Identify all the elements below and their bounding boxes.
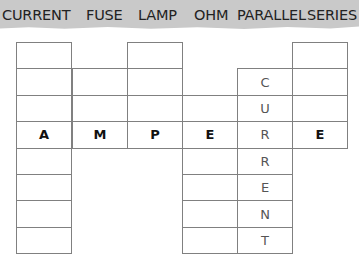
grid-cell-c5-r0[interactable] bbox=[292, 42, 348, 69]
grid-cell-c3-r4[interactable] bbox=[182, 148, 238, 175]
cell-letter: U bbox=[260, 101, 270, 116]
grid-cell-c4-r5[interactable]: E bbox=[237, 174, 293, 201]
grid-cell-c4-r1[interactable]: C bbox=[237, 68, 293, 95]
grid-cell-c3-r6[interactable] bbox=[182, 200, 238, 227]
grid-cell-c5-r3[interactable]: E bbox=[292, 121, 348, 148]
grid-cell-c4-r6[interactable]: N bbox=[237, 200, 293, 227]
grid-cell-c0-r4[interactable] bbox=[16, 148, 72, 175]
grid-cell-c0-r0[interactable] bbox=[16, 42, 72, 69]
cell-letter: C bbox=[260, 75, 269, 90]
grid-cell-c1-r1[interactable] bbox=[72, 68, 128, 95]
cell-letter: T bbox=[261, 233, 269, 248]
grid-cell-c0-r7[interactable] bbox=[16, 227, 72, 254]
grid-cell-c0-r3[interactable]: A bbox=[16, 121, 72, 148]
grid-cell-c2-r2[interactable] bbox=[127, 95, 183, 122]
grid-cell-c2-r3[interactable]: P bbox=[127, 121, 183, 148]
grid-cell-c2-r0[interactable] bbox=[127, 42, 183, 69]
word-bank-item-fuse: FUSE bbox=[86, 7, 123, 23]
grid-cell-c0-r6[interactable] bbox=[16, 200, 72, 227]
grid-cell-c1-r3[interactable]: M bbox=[72, 121, 128, 148]
word-bank-item-current: CURRENT bbox=[2, 7, 70, 23]
cell-letter: A bbox=[39, 127, 49, 142]
cell-letter: E bbox=[206, 127, 215, 142]
cell-letter: M bbox=[94, 127, 107, 142]
cell-letter: E bbox=[261, 180, 269, 195]
word-bank-item-lamp: LAMP bbox=[138, 7, 177, 23]
grid-cell-c3-r2[interactable] bbox=[182, 95, 238, 122]
grid-cell-c3-r7[interactable] bbox=[182, 227, 238, 254]
grid-cell-c5-r2[interactable] bbox=[292, 95, 348, 122]
word-bank-item-series: SERIES bbox=[307, 7, 357, 23]
grid-cell-c4-r4[interactable]: R bbox=[237, 148, 293, 175]
grid-cell-c0-r2[interactable] bbox=[16, 95, 72, 122]
grid-cell-c4-r3[interactable]: R bbox=[237, 121, 293, 148]
cell-letter: P bbox=[150, 127, 160, 142]
cell-letter: R bbox=[260, 127, 269, 142]
grid-cell-c4-r2[interactable]: U bbox=[237, 95, 293, 122]
grid-cell-c2-r1[interactable] bbox=[127, 68, 183, 95]
word-bank-item-parallel: PARALLEL bbox=[237, 7, 306, 23]
grid-cell-c5-r1[interactable] bbox=[292, 68, 348, 95]
grid-cell-c3-r3[interactable]: E bbox=[182, 121, 238, 148]
grid-cell-c0-r5[interactable] bbox=[16, 174, 72, 201]
cell-letter: N bbox=[260, 207, 270, 222]
cell-letter: E bbox=[316, 127, 325, 142]
grid-cell-c0-r1[interactable] bbox=[16, 68, 72, 95]
grid-cell-c4-r7[interactable]: T bbox=[237, 227, 293, 254]
cell-letter: R bbox=[260, 154, 269, 169]
grid-cell-c3-r5[interactable] bbox=[182, 174, 238, 201]
word-bank-item-ohm: OHM bbox=[194, 7, 228, 23]
grid-cell-c1-r2[interactable] bbox=[72, 95, 128, 122]
